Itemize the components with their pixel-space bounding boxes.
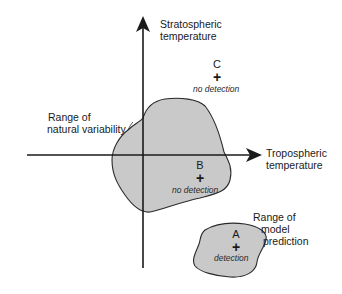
detection-diagram: Stratospheric temperature Tropospheric t… [0,0,342,294]
natural-variability-label-line2: natural variability [47,123,126,135]
natural-variability-label-line1: Range of [47,111,126,123]
point-a-marker-icon: + [229,240,243,254]
model-prediction-label: Range of model prediction [253,211,313,247]
point-c-marker-icon: + [210,70,224,84]
y-axis-label-line2: temperature [160,30,222,42]
point-c-status: no detection [193,84,239,94]
point-b-status: no detection [172,185,218,195]
y-axis-label-line1: Stratospheric [160,18,222,30]
model-prediction-label-line1: Range of [253,211,313,223]
y-axis-label: Stratospheric temperature [160,18,222,42]
model-prediction-label-line3: prediction [253,235,313,247]
point-b-marker-icon: + [193,171,207,185]
x-axis-label-line1: Tropospheric [266,147,327,159]
model-prediction-label-line2: model [253,223,313,235]
point-a-status: detection [214,253,249,263]
x-axis-label: Tropospheric temperature [266,147,327,171]
natural-variability-label: Range of natural variability [47,111,126,135]
x-axis-label-line2: temperature [266,159,327,171]
